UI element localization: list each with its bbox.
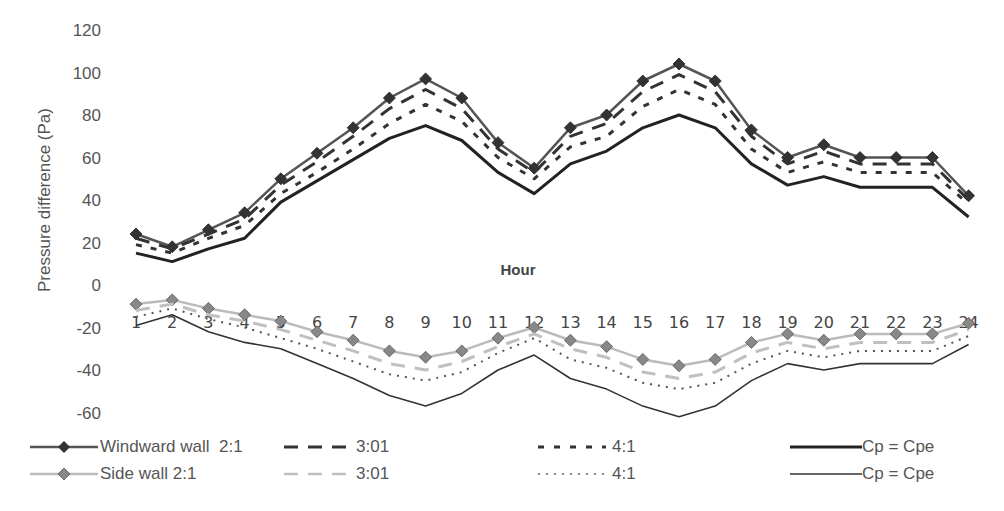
y-tick-label: 120 xyxy=(73,21,101,40)
y-tick-label: 0 xyxy=(92,276,101,295)
line-chart: 120100806040200-20-40-60 Pressure differ… xyxy=(0,0,1004,436)
diamond-marker-icon xyxy=(564,334,576,346)
diamond-marker-icon xyxy=(890,152,902,164)
legend-swatch-solid-thick-icon xyxy=(790,440,862,454)
x-tick-label: 13 xyxy=(560,313,580,332)
x-tick-label: 11 xyxy=(488,313,508,332)
legend-item-windward-3-1: 3:01 xyxy=(282,436,389,458)
legend-swatch-longdash-dark-icon xyxy=(282,440,350,454)
legend-swatch-diamond-dark-icon xyxy=(28,440,100,454)
legend-label: 4:1 xyxy=(612,437,636,457)
x-tick-label: 17 xyxy=(705,313,725,332)
legend-item-side-2-1: Side wall 2:1 xyxy=(28,463,196,485)
diamond-marker-icon xyxy=(818,334,830,346)
y-tick-label: 60 xyxy=(82,149,101,168)
legend-label: Windward wall 2:1 xyxy=(100,437,243,457)
x-axis-label: Hour xyxy=(501,261,536,278)
y-tick-label: 40 xyxy=(82,191,101,210)
series-line xyxy=(136,308,969,389)
x-tick-label: 7 xyxy=(348,313,358,332)
legend-swatch-dotted-icon xyxy=(536,467,608,481)
x-axis-tick-labels: 123456789101112131415161718192021222324 xyxy=(131,313,979,332)
y-axis: 120100806040200-20-40-60 xyxy=(73,21,101,423)
diamond-marker-icon xyxy=(420,73,432,85)
y-tick-label: -40 xyxy=(76,361,101,380)
legend-item-windward-2-1: Windward wall 2:1 xyxy=(28,436,243,458)
legend-item-side-4-1: 4:1 xyxy=(536,463,636,485)
x-tick-label: 20 xyxy=(814,313,834,332)
series-line xyxy=(136,64,969,247)
legend-item-windward-cp-cpe: Cp = Cpe xyxy=(790,436,934,458)
diamond-marker-icon xyxy=(709,353,721,365)
y-tick-label: 80 xyxy=(82,106,101,125)
legend-label: Cp = Cpe xyxy=(862,464,934,484)
legend-swatch-solid-thin-icon xyxy=(790,467,862,481)
legend: Windward wall 2:1 3:01 4:1 Cp = Cpe Side… xyxy=(0,436,1004,506)
series-line xyxy=(136,115,969,262)
diamond-marker-icon xyxy=(420,351,432,363)
y-tick-label: -60 xyxy=(76,404,101,423)
y-tick-label: 20 xyxy=(82,234,101,253)
legend-swatch-diamond-light-icon xyxy=(28,467,100,481)
legend-label: Side wall 2:1 xyxy=(100,464,196,484)
diamond-marker-icon xyxy=(673,360,685,372)
series-line xyxy=(136,315,969,417)
x-tick-label: 14 xyxy=(596,313,616,332)
legend-item-side-cp-cpe: Cp = Cpe xyxy=(790,463,934,485)
diamond-marker-icon xyxy=(673,58,685,70)
y-axis-label: Pressure difference (Pa) xyxy=(35,108,54,292)
legend-label: 3:01 xyxy=(356,464,389,484)
x-tick-label: 8 xyxy=(384,313,394,332)
legend-label: 3:01 xyxy=(356,437,389,457)
y-tick-label: 100 xyxy=(73,64,101,83)
legend-swatch-longdash-light-icon xyxy=(282,467,350,481)
legend-swatch-dash-dark-icon xyxy=(536,440,608,454)
diamond-marker-icon xyxy=(456,345,468,357)
series-lines xyxy=(130,58,975,417)
x-tick-label: 1 xyxy=(131,313,141,332)
diamond-marker-icon xyxy=(492,332,504,344)
legend-item-side-3-1: 3:01 xyxy=(282,463,389,485)
diamond-marker-icon xyxy=(347,334,359,346)
series-line xyxy=(136,90,969,254)
x-tick-label: 18 xyxy=(741,313,761,332)
legend-label: 4:1 xyxy=(612,464,636,484)
diamond-marker-icon xyxy=(745,336,757,348)
y-tick-label: -20 xyxy=(76,319,101,338)
x-tick-label: 9 xyxy=(421,313,431,332)
x-tick-label: 16 xyxy=(669,313,689,332)
diamond-marker-icon xyxy=(383,345,395,357)
x-tick-label: 10 xyxy=(452,313,472,332)
legend-item-windward-4-1: 4:1 xyxy=(536,436,636,458)
diamond-marker-icon xyxy=(601,341,613,353)
legend-label: Cp = Cpe xyxy=(862,437,934,457)
x-tick-label: 15 xyxy=(633,313,653,332)
diamond-marker-icon xyxy=(818,139,830,151)
diamond-marker-icon xyxy=(637,353,649,365)
